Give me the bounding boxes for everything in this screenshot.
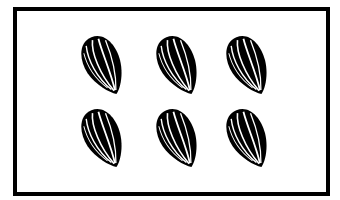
sunflower-seed-icon [154,33,202,99]
sunflower-seed-icon [79,33,127,99]
sunflower-seed-icon [224,33,272,99]
sunflower-seed-icon [154,106,202,172]
sunflower-seed-icon [79,106,127,172]
sunflower-seed-icon [224,106,272,172]
